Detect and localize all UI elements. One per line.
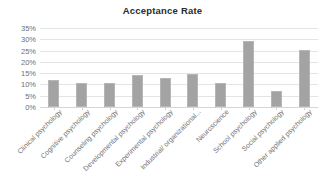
bar[interactable] <box>76 83 87 107</box>
bar-series <box>40 28 318 107</box>
bar[interactable] <box>48 80 59 107</box>
bar[interactable] <box>271 91 282 107</box>
bar-slot <box>123 28 151 107</box>
bar[interactable] <box>299 50 310 107</box>
bar-slot <box>40 28 68 107</box>
bar[interactable] <box>215 83 226 107</box>
y-axis-tick: 30% <box>21 35 36 44</box>
y-axis-tick: 10% <box>21 80 36 89</box>
y-axis-tick: 0% <box>25 103 36 112</box>
y-axis-tick-labels: 35%30%25%20%15%10%5%0% <box>0 28 36 107</box>
acceptance-rate-bar-chart: Acceptance Rate 35%30%25%20%15%10%5%0% C… <box>0 0 325 190</box>
bar[interactable] <box>104 83 115 107</box>
bar-slot <box>179 28 207 107</box>
y-axis-tick: 15% <box>21 69 36 78</box>
y-axis-tick: 20% <box>21 57 36 66</box>
bar[interactable] <box>160 78 171 107</box>
y-axis-tick: 25% <box>21 46 36 55</box>
bar-slot <box>68 28 96 107</box>
bar-slot <box>207 28 235 107</box>
bar-slot <box>235 28 263 107</box>
x-axis-tick: Counseling psychology <box>63 108 119 164</box>
bar-slot <box>262 28 290 107</box>
bar-slot <box>290 28 318 107</box>
bar[interactable] <box>187 74 198 107</box>
bar-slot <box>96 28 124 107</box>
chart-title: Acceptance Rate <box>0 5 325 16</box>
x-axis-tick: Cognitive psychology <box>39 108 91 160</box>
x-axis-tick: Industrial/ organizational... <box>139 108 202 171</box>
y-axis-tick: 35% <box>21 24 36 33</box>
y-axis-tick: 5% <box>25 91 36 100</box>
bar[interactable] <box>243 41 254 107</box>
bar-slot <box>151 28 179 107</box>
x-axis-tick: Other applied psychology <box>252 108 313 169</box>
bar[interactable] <box>132 75 143 107</box>
x-axis-tick-labels: Clinical psychologyCognitive psychologyC… <box>40 108 318 190</box>
